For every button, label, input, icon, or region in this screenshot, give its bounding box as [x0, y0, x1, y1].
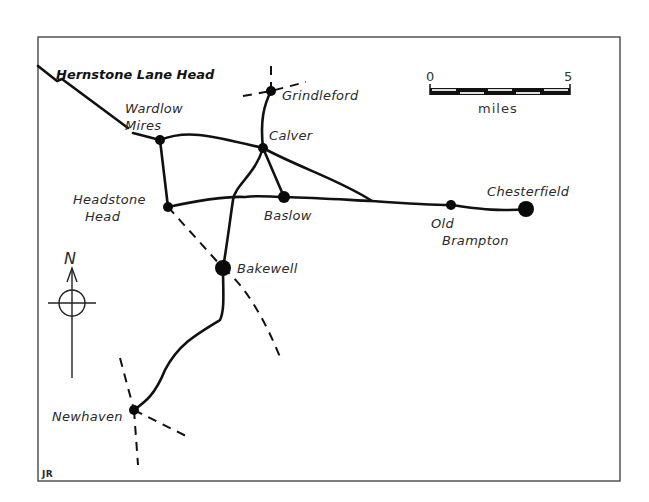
town-label-newhaven: Newhaven — [52, 409, 123, 424]
town-label-bakewell: Bakewell — [237, 261, 298, 276]
north-label: N — [64, 249, 76, 268]
town-marker-old-brampton — [446, 200, 456, 210]
footpath — [223, 268, 280, 357]
footpath — [134, 410, 190, 438]
town-label-headstone-head: HeadstoneHead — [73, 192, 146, 224]
map-title: Hernstone Lane Head — [56, 67, 215, 82]
road — [263, 148, 284, 197]
road — [168, 196, 526, 210]
scale-unit-label: miles — [478, 101, 518, 116]
town-marker-baslow — [278, 191, 290, 203]
road — [160, 140, 168, 207]
footpath — [120, 358, 134, 410]
town-marker-chesterfield — [518, 201, 534, 217]
town-marker-wardlow-mires — [155, 135, 165, 145]
road — [134, 268, 223, 410]
town-label-calver: Calver — [269, 128, 314, 143]
footpath — [168, 207, 223, 268]
map-canvas: GrindlefordWardlowMiresCalverBaslowHeads… — [0, 0, 649, 502]
town-label-wardlow-mires: WardlowMires — [125, 101, 183, 133]
town-label-old-brampton: OldBrampton — [431, 216, 509, 248]
town-label-baslow: Baslow — [264, 208, 312, 223]
author-signature: JR — [41, 469, 53, 479]
scale-start-label: 0 — [426, 69, 435, 84]
map-figure: GrindlefordWardlowMiresCalverBaslowHeads… — [0, 0, 649, 502]
north-arrow-icon: N — [48, 249, 96, 378]
town-label-chesterfield: Chesterfield — [487, 184, 570, 199]
town-marker-calver — [258, 143, 268, 153]
town-marker-newhaven — [129, 405, 139, 415]
town-marker-grindleford — [266, 86, 276, 96]
town-marker-bakewell — [215, 260, 231, 276]
road — [263, 148, 372, 201]
town-marker-headstone-head — [163, 202, 173, 212]
town-labels: GrindlefordWardlowMiresCalverBaslowHeads… — [52, 88, 570, 424]
footpath — [134, 410, 138, 465]
road — [223, 148, 263, 268]
town-label-grindleford: Grindleford — [282, 88, 359, 103]
scale-end-label: 5 — [564, 69, 573, 84]
scale-bar: 0 5 miles — [426, 69, 573, 116]
